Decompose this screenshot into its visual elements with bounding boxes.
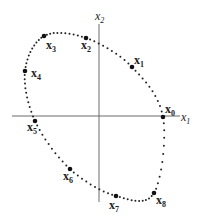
point-x4-marker xyxy=(23,69,28,74)
orbit-dot xyxy=(85,181,87,183)
orbit-dot xyxy=(39,129,41,131)
orbit-dot xyxy=(26,97,28,99)
orbit-dot xyxy=(145,199,147,201)
orbit-dot xyxy=(155,188,157,190)
orbit-dot xyxy=(138,200,140,202)
orbit-dot xyxy=(56,32,58,34)
orbit-dot xyxy=(163,137,165,139)
x1-axis-label: x1 xyxy=(180,110,190,126)
orbit-dot xyxy=(29,51,31,53)
orbit-dot xyxy=(111,194,113,196)
orbit-dot xyxy=(159,105,161,107)
point-x6-label: x6 xyxy=(63,169,73,185)
point-x0-label: x0 xyxy=(165,102,175,118)
orbit-dot xyxy=(24,78,26,80)
orbit-dot xyxy=(33,44,35,46)
orbit-dot xyxy=(152,90,154,92)
orbit-dot xyxy=(44,139,46,141)
orbit-trail xyxy=(24,32,166,202)
orbit-dot xyxy=(134,200,136,202)
orbit-dot xyxy=(53,32,55,34)
orbit-dot xyxy=(107,47,109,49)
point-x3-label: x3 xyxy=(46,38,56,54)
orbit-dot xyxy=(24,87,26,89)
orbit-dot xyxy=(49,33,51,35)
orbit-dot xyxy=(119,196,121,198)
orbit-dot xyxy=(24,74,26,76)
orbit-dot xyxy=(94,186,96,188)
orbit-dot xyxy=(102,45,104,47)
orbit-dot xyxy=(24,83,26,85)
orbit-dot xyxy=(25,66,27,68)
orbit-dot xyxy=(60,32,62,34)
orbit-dot xyxy=(127,198,129,200)
orbit-dot xyxy=(77,35,79,37)
point-x2-label: x2 xyxy=(81,38,91,54)
orbit-dot xyxy=(73,34,75,36)
orbit-dot xyxy=(29,106,31,108)
orbit-dot xyxy=(163,122,165,124)
orbit-dot xyxy=(93,40,95,42)
orbit-dot xyxy=(154,95,156,97)
orbit-dot xyxy=(163,129,165,131)
orbit-dot xyxy=(148,86,150,88)
orbit-dot xyxy=(81,178,83,180)
orbit-dot xyxy=(90,183,92,185)
orbit-dot xyxy=(54,152,56,154)
orbit-diagram: x1 x2 x0x1x2x3x4x5x6x7x8 xyxy=(0,0,199,216)
orbit-dot xyxy=(25,62,27,64)
orbit-dot xyxy=(157,100,159,102)
orbit-dot xyxy=(148,197,150,199)
orbit-dot xyxy=(27,101,29,103)
orbit-dot xyxy=(162,153,164,155)
orbit-dot xyxy=(111,50,113,52)
point-x7-label: x7 xyxy=(109,198,119,214)
orbit-dot xyxy=(28,55,30,57)
orbit-dot xyxy=(32,116,34,118)
orbit-dot xyxy=(77,175,79,177)
orbit-dot xyxy=(48,143,50,145)
orbit-dot xyxy=(98,188,100,190)
orbit-dot xyxy=(107,192,109,194)
x2-axis-label: x2 xyxy=(94,9,104,25)
orbit-dot xyxy=(65,164,67,166)
orbit-dot xyxy=(38,39,40,41)
orbit-dot xyxy=(35,42,37,44)
orbit-dot xyxy=(31,48,33,50)
orbit-dot xyxy=(157,182,159,184)
point-x8-label: x8 xyxy=(156,193,166,209)
orbit-dot xyxy=(30,111,32,113)
orbit-dot xyxy=(64,32,66,34)
orbit-dot xyxy=(151,195,153,197)
orbit-dot xyxy=(124,59,126,61)
orbit-dot xyxy=(127,63,129,65)
orbit-dot xyxy=(103,190,105,192)
point-x4-label: x4 xyxy=(31,66,41,82)
orbit-dot xyxy=(41,134,43,136)
orbit-dot xyxy=(160,169,162,171)
point-x1-label: x1 xyxy=(134,53,144,69)
orbit-dot xyxy=(142,77,144,79)
orbit-dot xyxy=(89,39,91,41)
orbit-dot xyxy=(58,157,60,159)
orbit-dot xyxy=(27,58,29,60)
orbit-dot xyxy=(159,176,161,178)
orbit-dot xyxy=(51,148,53,150)
orbit-dot xyxy=(123,197,125,199)
orbit-dot xyxy=(73,171,75,173)
orbit-dot xyxy=(69,33,71,35)
orbit-dot xyxy=(62,161,64,163)
orbit-dot xyxy=(161,161,163,163)
point-x5-marker xyxy=(33,119,38,124)
orbit-dot xyxy=(115,53,117,55)
orbit-dot xyxy=(161,110,163,112)
orbit-dot xyxy=(138,74,140,76)
orbit-dot xyxy=(142,200,144,202)
orbit-dot xyxy=(98,42,100,44)
orbit-dot xyxy=(135,70,137,72)
orbit-dot xyxy=(163,145,165,147)
orbit-dot xyxy=(119,56,121,58)
orbit-dot xyxy=(131,199,133,201)
orbit-dot xyxy=(145,82,147,84)
orbit-dot xyxy=(25,92,27,94)
